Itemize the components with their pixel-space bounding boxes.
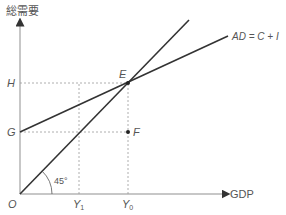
origin-label: O xyxy=(8,198,17,210)
label-y0: Y0 xyxy=(122,198,133,211)
point-f xyxy=(126,130,130,134)
x-axis-label: GDP xyxy=(230,188,254,200)
ad-curve-label: AD = C + I xyxy=(231,31,279,42)
angle-label: 45° xyxy=(54,176,68,186)
angle-arc xyxy=(42,171,52,194)
keynesian-cross-diagram: 総需要 GDP O AD = C + I 45° H G E F Y1 Y0 xyxy=(0,0,286,215)
45-degree-line xyxy=(20,20,189,194)
label-y1: Y1 xyxy=(73,198,84,211)
y-axis-label: 総需要 xyxy=(6,4,39,17)
label-g: G xyxy=(7,126,16,138)
point-e xyxy=(126,81,130,85)
ad-line xyxy=(20,36,228,132)
label-f: F xyxy=(133,126,141,138)
label-e: E xyxy=(119,68,127,80)
label-h: H xyxy=(7,77,15,89)
